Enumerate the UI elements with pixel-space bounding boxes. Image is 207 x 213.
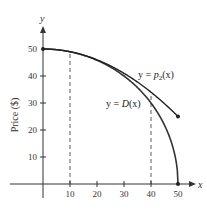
p2-curve-label: y = p2(x): [138, 69, 174, 82]
y-axis-var-label: y: [39, 13, 45, 24]
p2-end-dot: [176, 115, 180, 119]
d-curve-label: y = D(x): [106, 98, 141, 110]
y-tick-label: 40: [28, 71, 38, 81]
x-tick-label: 30: [120, 189, 130, 199]
x-tick-label: 40: [147, 189, 157, 199]
y-axis-label: Price ($): [9, 98, 21, 133]
x-axis-var-label: x: [197, 179, 203, 190]
x-tick-labels: 10 20 30 40 50: [66, 189, 184, 199]
start-point-dot: [41, 47, 45, 51]
x-tick-label: 20: [93, 189, 103, 199]
y-axis-arrow-icon: [40, 26, 46, 33]
y-tick-label: 50: [28, 44, 38, 54]
x-tick-label: 10: [66, 189, 76, 199]
chart: y x 10 20 30 40 50 10 20 30 40 50 Price …: [0, 0, 207, 213]
x-axis-arrow-icon: [189, 181, 196, 187]
y-tick-label: 30: [28, 98, 38, 108]
x-tick-label: 50: [174, 189, 184, 199]
y-tick-label: 20: [28, 125, 38, 135]
axes: [10, 31, 190, 198]
d-end-dot: [176, 182, 180, 186]
y-tick-label: 10: [28, 152, 38, 162]
y-tick-labels: 10 20 30 40 50: [28, 44, 38, 162]
